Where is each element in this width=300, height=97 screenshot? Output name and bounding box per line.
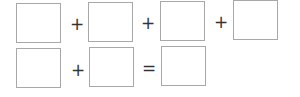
equals-operator: = xyxy=(142,60,156,77)
plus-operator: + xyxy=(141,15,155,32)
plus-operator: + xyxy=(214,14,228,31)
answer-box-3[interactable] xyxy=(160,1,205,41)
answer-box-6[interactable] xyxy=(89,47,134,87)
plus-operator: + xyxy=(71,62,85,79)
answer-box-2[interactable] xyxy=(88,2,133,42)
answer-box-1[interactable] xyxy=(16,3,61,43)
answer-box-4[interactable] xyxy=(233,0,278,40)
answer-box-result[interactable] xyxy=(161,46,206,86)
answer-box-5[interactable] xyxy=(16,48,61,88)
plus-operator: + xyxy=(70,16,84,33)
